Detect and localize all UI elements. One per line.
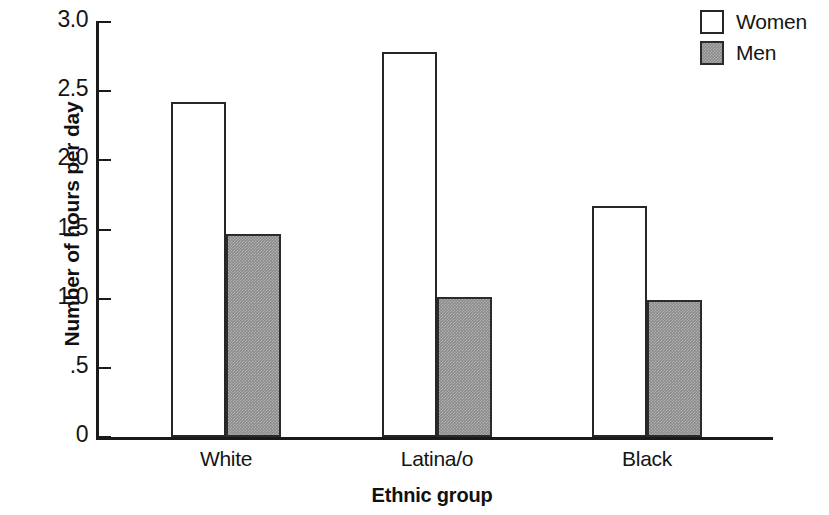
legend-label-women: Women (736, 10, 807, 34)
legend: Women Men (700, 6, 807, 68)
x-tick-label-black: Black (557, 447, 737, 471)
y-tick-label: 3.0 (4, 6, 88, 33)
bar-latina-o-men (437, 297, 492, 437)
x-tick-label-latina-o: Latina/o (347, 447, 527, 471)
legend-label-men: Men (736, 41, 776, 65)
bar-black-men (647, 300, 702, 437)
y-tick-mark (99, 90, 111, 92)
x-axis-title: Ethnic group (90, 484, 774, 507)
y-tick-label: 2.0 (4, 144, 88, 171)
bar-chart: Number of hours per day 3.02.52.01.51.0.… (0, 0, 829, 515)
y-tick-label: .5 (4, 352, 88, 379)
y-tick-mark (99, 159, 111, 161)
y-tick-label: 1.0 (4, 283, 88, 310)
y-tick-label: 2.5 (4, 75, 88, 102)
y-tick-mark (99, 367, 111, 369)
x-axis-line (96, 437, 773, 440)
y-tick-mark (99, 21, 111, 23)
y-tick-mark (99, 229, 111, 231)
bar-black-women (592, 206, 647, 437)
legend-swatch-women-icon (700, 10, 724, 34)
bar-latina-o-women (382, 52, 437, 437)
legend-swatch-men-icon (700, 41, 724, 65)
y-tick-mark (99, 436, 111, 438)
legend-item-women: Women (700, 6, 807, 37)
y-tick-mark (99, 298, 111, 300)
bar-white-women (171, 102, 226, 437)
x-tick-label-white: White (136, 447, 316, 471)
bar-white-men (226, 234, 281, 437)
y-tick-label: 1.5 (4, 214, 88, 241)
legend-item-men: Men (700, 37, 807, 68)
y-tick-label: 0 (4, 421, 88, 448)
